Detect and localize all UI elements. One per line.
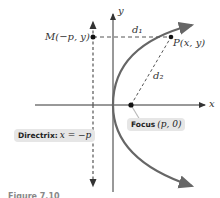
- d2-label: d₂: [153, 71, 163, 81]
- point-p-label: P(x, y): [173, 38, 205, 48]
- x-axis-label: x: [209, 99, 215, 109]
- directrix-callout: Directrix: x = −p: [14, 129, 95, 142]
- point-focus: [128, 102, 133, 107]
- d1-label: d₁: [132, 25, 142, 35]
- focus-prefix: Focus: [131, 120, 155, 129]
- focus-coordinates: (p, 0): [157, 119, 181, 129]
- parabola-diagram: [0, 0, 220, 198]
- directrix-equation: x = −p: [60, 130, 92, 140]
- point-m: [91, 35, 96, 40]
- directrix-prefix: Directrix:: [18, 131, 58, 140]
- point-m-label: M(−p, y): [45, 32, 90, 42]
- d2-segment: [131, 37, 171, 105]
- figure-caption: Figure 7.10: [8, 192, 60, 198]
- focus-callout: Focus (p, 0): [127, 118, 185, 131]
- y-axis-label: y: [118, 6, 124, 16]
